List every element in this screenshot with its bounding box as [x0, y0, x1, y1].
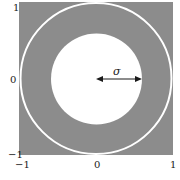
x-tick-label-left: −1 [15, 159, 30, 170]
figure-canvas: σ 1 0 −1 −1 0 1 [0, 0, 180, 180]
x-tick-label-middle: 0 [94, 159, 100, 170]
y-tick-label-top: 1 [13, 2, 19, 13]
x-tick-label-right: 1 [170, 159, 176, 170]
y-tick-label-middle: 0 [10, 74, 16, 85]
sigma-label: σ [113, 65, 121, 78]
annulus-figure: σ 1 0 −1 −1 0 1 [0, 0, 180, 180]
